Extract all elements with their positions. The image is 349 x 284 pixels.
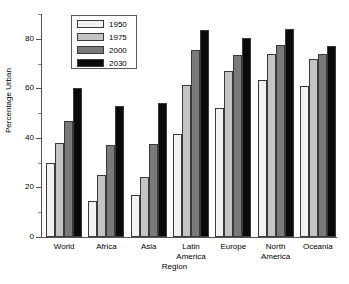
bar <box>64 121 73 237</box>
bar <box>200 30 209 237</box>
legend-swatch <box>77 20 104 28</box>
bar <box>285 29 294 237</box>
y-tick-major <box>36 187 41 188</box>
y-tick-minor <box>38 163 41 164</box>
bar <box>215 108 224 237</box>
y-tick-label: 80 <box>17 35 34 43</box>
bar <box>318 54 327 237</box>
legend-label: 2000 <box>109 46 127 55</box>
legend-swatch <box>77 59 104 67</box>
legend-label: 1950 <box>109 20 127 29</box>
bar-group <box>173 14 209 237</box>
bar <box>242 38 251 237</box>
x-axis-title: Region <box>0 262 349 271</box>
bar <box>106 145 115 237</box>
bar <box>258 80 267 237</box>
bar <box>327 46 336 237</box>
y-tick-minor <box>38 14 41 15</box>
x-category-label: Oceania <box>273 242 349 252</box>
y-tick-label: 20 <box>17 183 34 191</box>
y-tick-major <box>36 237 41 238</box>
bar <box>267 54 276 237</box>
y-tick-label: 60 <box>17 84 34 92</box>
bar <box>46 163 55 237</box>
legend-item[interactable]: 2030 <box>72 58 136 69</box>
y-tick-minor <box>38 113 41 114</box>
legend-swatch <box>77 46 104 54</box>
bar-group <box>215 14 251 237</box>
bar-group <box>258 14 294 237</box>
y-tick-label: 0 <box>17 233 34 241</box>
y-axis-title: Percentage Urban <box>4 61 13 141</box>
legend[interactable]: 1950197520002030 <box>71 15 137 69</box>
bar <box>55 143 64 237</box>
bar-chart: 020406080 WorldAfricaAsiaLatin AmericaEu… <box>0 0 349 284</box>
legend-item[interactable]: 1975 <box>72 32 136 43</box>
bar <box>131 195 140 237</box>
bar <box>300 86 309 237</box>
bar <box>149 144 158 237</box>
legend-swatch <box>77 33 104 41</box>
y-tick-minor <box>38 212 41 213</box>
y-axis-line <box>41 14 42 238</box>
legend-label: 1975 <box>109 33 127 42</box>
bar <box>309 59 318 237</box>
legend-label: 2030 <box>109 59 127 68</box>
bar <box>233 55 242 237</box>
y-tick-major <box>36 138 41 139</box>
legend-item[interactable]: 1950 <box>72 19 136 30</box>
y-tick-major <box>36 39 41 40</box>
bar <box>276 45 285 237</box>
y-tick-minor <box>38 64 41 65</box>
bar <box>158 103 167 237</box>
bar <box>88 201 97 237</box>
bar <box>182 85 191 237</box>
bar <box>224 71 233 237</box>
bar <box>73 88 82 237</box>
y-tick-major <box>36 88 41 89</box>
bar <box>97 175 106 237</box>
bar-group <box>300 14 336 237</box>
y-tick-label: 40 <box>17 134 34 142</box>
legend-item[interactable]: 2000 <box>72 45 136 56</box>
bar <box>140 177 149 237</box>
bar <box>191 50 200 237</box>
x-axis-line <box>41 237 337 238</box>
bar <box>115 106 124 237</box>
bar <box>173 134 182 237</box>
